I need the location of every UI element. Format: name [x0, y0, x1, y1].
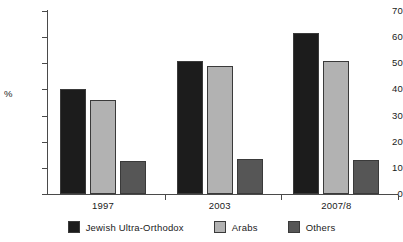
y-axis-tick [42, 89, 47, 90]
legend-swatch-icon [214, 221, 226, 233]
y-axis-tick [42, 142, 47, 143]
legend-label: Arabs [232, 222, 258, 233]
chart-legend: Jewish Ultra-OrthodoxArabsOthers [0, 221, 403, 233]
bar [293, 33, 319, 194]
bar-chart: % 010203040506070 199720032007/8 Jewish … [0, 0, 403, 242]
x-axis-line [47, 194, 398, 195]
x-axis-group-separator [281, 195, 282, 200]
legend-label: Jewish Ultra-Orthodox [86, 222, 184, 233]
legend-label: Others [306, 222, 336, 233]
bar [237, 159, 263, 194]
y-axis-tick [42, 116, 47, 117]
x-axis-group-separator [398, 195, 399, 200]
y-axis-tick [42, 37, 47, 38]
bar [60, 89, 86, 194]
bar [353, 160, 379, 194]
plot-area [48, 11, 398, 194]
legend-swatch-icon [68, 221, 80, 233]
y-axis-tick [42, 168, 47, 169]
bar [120, 161, 146, 194]
bar [90, 100, 116, 194]
bar [323, 61, 349, 194]
legend-item: Arabs [214, 221, 258, 233]
bar [177, 61, 203, 194]
y-axis-tick [42, 63, 47, 64]
x-axis-category-label: 2003 [180, 200, 260, 211]
x-axis-category-label: 1997 [63, 200, 143, 211]
x-axis-group-separator [165, 195, 166, 200]
y-axis-title: % [4, 89, 12, 99]
legend-item: Jewish Ultra-Orthodox [68, 221, 184, 233]
legend-item: Others [288, 221, 336, 233]
y-axis-tick [42, 194, 47, 195]
x-axis-category-label: 2007/8 [296, 200, 376, 211]
y-axis-tick [42, 11, 47, 12]
bar [207, 66, 233, 194]
legend-swatch-icon [288, 221, 300, 233]
